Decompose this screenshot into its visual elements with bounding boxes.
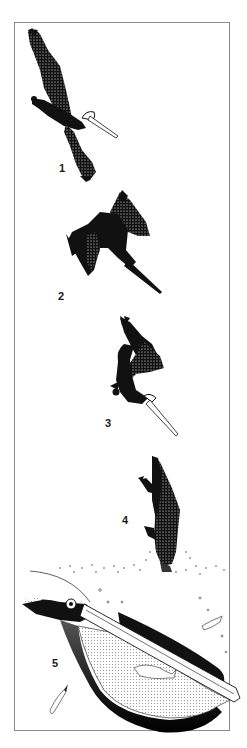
- stage-label-4: 4: [122, 515, 128, 526]
- pelican-stage-2: [66, 190, 162, 294]
- water-surface: [59, 547, 224, 574]
- pelican-stage-1: [28, 28, 118, 182]
- pelican-stage-4: [138, 456, 180, 572]
- stage-label-3: 3: [105, 418, 111, 429]
- stage-label-2: 2: [58, 291, 64, 302]
- pelican-stage-3: [110, 316, 178, 436]
- stage-label-5: 5: [52, 658, 58, 669]
- stage-label-1: 1: [59, 163, 65, 174]
- pelican-dive-illustration: [0, 0, 247, 748]
- pelican-stage-5: [22, 571, 240, 733]
